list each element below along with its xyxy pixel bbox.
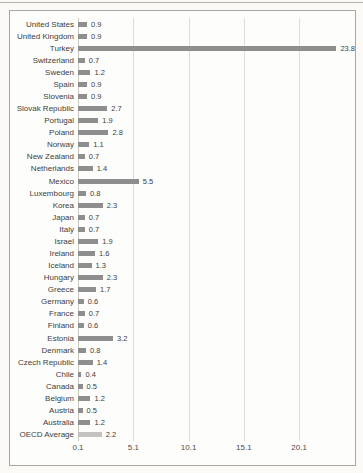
category-label: Slovenia [10,92,78,101]
category-label: Israel [10,237,78,246]
value-label: 0.7 [89,309,99,318]
bar [78,432,102,437]
value-label: 1.4 [97,164,107,173]
category-label: Spain [10,80,78,89]
bar [78,118,98,123]
bar [78,408,83,413]
bar [78,166,93,171]
x-tick-label: 15.1 [236,443,252,452]
bar-row: OECD Average2.2 [10,429,355,441]
bar-area: 2.3 [78,199,355,211]
x-tick-label: 20.1 [291,443,307,452]
category-label: Finland [10,321,78,330]
bar-area: 0.5 [78,405,355,417]
x-tick-label: 0.1 [72,443,83,452]
bar [78,396,90,401]
value-label: 23.8 [340,44,355,53]
bar [78,287,96,292]
bar-area: 2.8 [78,127,355,139]
bar-row: Switzerland0.7 [10,54,355,66]
category-label: Italy [10,225,78,234]
category-label: Denmark [10,346,78,355]
bar-row: Denmark0.8 [10,344,355,356]
category-label: Belgium [10,394,78,403]
value-label: 1.9 [102,237,112,246]
category-label: United Kingdom [10,32,78,41]
bar-area: 0.7 [78,151,355,163]
plot-area: United States0.9United Kingdom0.9Turkey2… [10,18,355,441]
bar-area: 3.2 [78,332,355,344]
category-label: Austria [10,406,78,415]
category-label: Netherlands [10,164,78,173]
bar-row: Hungary2.3 [10,272,355,284]
bar-rows: United States0.9United Kingdom0.9Turkey2… [10,18,355,441]
bar [78,239,98,244]
bar-row: Sweden1.2 [10,66,355,78]
value-label: 0.8 [90,189,100,198]
bar-area: 1.1 [78,139,355,151]
bar [78,142,89,147]
bar [78,348,86,353]
value-label: 1.9 [102,116,112,125]
bar-area: 0.9 [78,78,355,90]
bar-row: Greece1.7 [10,284,355,296]
bar-row: Czech Republic1.4 [10,356,355,368]
value-label: 1.7 [100,285,110,294]
category-label: Switzerland [10,56,78,65]
bar-row: Ireland1.6 [10,247,355,259]
bar-row: Canada0.5 [10,380,355,392]
bar-area: 0.6 [78,296,355,308]
bar-row: Israel1.9 [10,235,355,247]
value-label: 2.3 [107,273,117,282]
bar-row: Slovak Republic2.7 [10,103,355,115]
bar-area: 0.9 [78,30,355,42]
bar-area: 1.3 [78,260,355,272]
bar-row: United Kingdom0.9 [10,30,355,42]
bar-row: Korea2.3 [10,199,355,211]
bar-row: Portugal1.9 [10,115,355,127]
bar [78,299,84,304]
category-label: Greece [10,285,78,294]
bar-area: 1.9 [78,115,355,127]
bar [78,46,336,51]
bar-area: 1.2 [78,417,355,429]
category-label: Poland [10,128,78,137]
bar-row: Netherlands1.4 [10,163,355,175]
bar [78,179,139,184]
bar [78,106,107,111]
category-label: Chile [10,370,78,379]
category-label: France [10,309,78,318]
bar [78,191,86,196]
category-label: Luxembourg [10,189,78,198]
bar-area: 0.8 [78,187,355,199]
category-label: Iceland [10,261,78,270]
bar-area: 2.2 [78,429,355,441]
bar-row: Chile0.4 [10,368,355,380]
bar-area: 1.2 [78,66,355,78]
bar-row: Norway1.1 [10,139,355,151]
value-label: 0.5 [87,406,97,415]
bar-area: 5.5 [78,175,355,187]
bar-chart: United States0.9United Kingdom0.9Turkey2… [9,10,356,466]
value-label: 5.5 [143,177,153,186]
category-label: Estonia [10,334,78,343]
bar-row: Finland0.6 [10,320,355,332]
value-label: 1.1 [93,140,103,149]
bar [78,22,87,27]
category-label: OECD Average [10,430,78,439]
value-label: 1.4 [97,358,107,367]
value-label: 1.3 [96,261,106,270]
bar [78,94,87,99]
category-label: Japan [10,213,78,222]
bar [78,130,108,135]
category-label: Slovak Republic [10,104,78,113]
bar [78,311,85,316]
bar-row: Spain0.9 [10,78,355,90]
bar-area: 23.8 [78,42,355,54]
bar-area: 0.9 [78,18,355,30]
value-label: 0.9 [91,32,101,41]
category-label: United States [10,20,78,29]
bar-area: 0.5 [78,380,355,392]
bar-area: 0.6 [78,320,355,332]
bar-area: 2.7 [78,103,355,115]
